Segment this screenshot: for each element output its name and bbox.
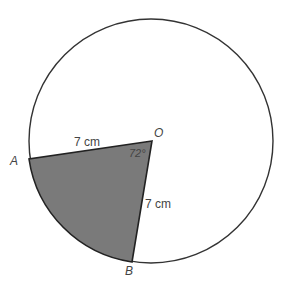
point-label-a: A [9,154,18,168]
circle-sector-diagram: O A B 7 cm 7 cm 72° [0,0,293,286]
point-label-b: B [125,264,133,278]
shaded-sector [29,141,152,262]
angle-label: 72° [129,147,146,159]
point-label-o: O [154,126,163,140]
length-label-ob: 7 cm [145,197,171,211]
length-label-oa: 7 cm [74,135,100,149]
